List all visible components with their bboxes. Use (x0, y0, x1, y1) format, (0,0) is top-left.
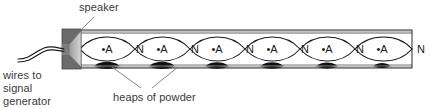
powder-heap (372, 63, 392, 68)
antinode-label: •A (376, 43, 388, 55)
antinode-label: •A (321, 43, 333, 55)
antinode-label: •A (101, 43, 113, 55)
standing-wave-diagram: •A •A •A •A •A •A N N N N N N (0, 0, 436, 108)
antinode-label: •A (266, 43, 278, 55)
leader-line-heap-left (112, 67, 141, 88)
speaker-callout-label: speaker (79, 1, 119, 14)
wires-callout-line-1: wires to (3, 69, 51, 82)
tube-bottom-wall (80, 64, 412, 68)
wires-callout-label: wires to signal generator (3, 69, 51, 108)
node-label: N (356, 43, 364, 55)
node-label: N (191, 43, 199, 55)
node-label: N (301, 43, 309, 55)
antinode-label: •A (156, 43, 168, 55)
wire-lower (18, 50, 64, 62)
wires-callout-line-2: signal (3, 82, 51, 95)
node-label: N (246, 43, 254, 55)
speaker (62, 29, 81, 69)
node-label: N (417, 43, 425, 55)
wires (18, 47, 64, 62)
leader-line-heap-right (152, 67, 178, 88)
heaps-of-powder-callout-label: heaps of powder (113, 91, 196, 104)
node-label: N (136, 43, 144, 55)
speaker-magnet (62, 44, 69, 55)
antinode-label: •A (211, 43, 223, 55)
wires-callout-line-3: generator (3, 95, 51, 108)
figure-root: •A •A •A •A •A •A N N N N N N (0, 0, 436, 108)
tube-top-wall (80, 31, 412, 34)
